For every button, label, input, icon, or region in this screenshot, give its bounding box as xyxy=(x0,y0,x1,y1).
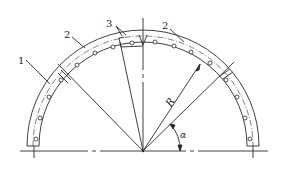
bolt-hole xyxy=(111,45,115,49)
bolt-hole xyxy=(59,78,63,82)
bolt-hole xyxy=(208,61,212,65)
label-part-2-right: 2 xyxy=(162,20,168,31)
bolt-hole xyxy=(248,137,252,141)
label-part-2-left: 2 xyxy=(64,29,70,40)
radial-line-crown xyxy=(120,42,143,151)
label-part-3: 3 xyxy=(106,18,112,29)
bolt-hole xyxy=(153,40,157,44)
bolt-hole xyxy=(235,95,239,99)
label-angle: α xyxy=(180,130,186,140)
bolt-hole xyxy=(172,44,176,48)
radial-line-right xyxy=(143,62,234,151)
bolt-hole xyxy=(75,63,79,67)
bolt-hole xyxy=(47,95,51,99)
bolt-hole xyxy=(93,51,97,55)
bolt-hole xyxy=(38,116,42,120)
diagram-svg: 1 2 3 2 R α xyxy=(0,0,285,170)
leader-1 xyxy=(26,60,50,84)
center-point xyxy=(142,150,144,152)
label-radius: R xyxy=(163,95,177,109)
leader-2-left xyxy=(72,37,85,48)
radial-line-left xyxy=(58,64,143,151)
bolt-hole xyxy=(34,137,38,141)
bolt-hole xyxy=(243,116,247,120)
bolt-hole xyxy=(130,41,134,45)
bolt-hole xyxy=(224,78,228,82)
bolt-hole xyxy=(189,50,193,54)
arch-diagram: 1 2 3 2 R α xyxy=(0,0,285,170)
label-part-1: 1 xyxy=(18,55,24,66)
radius-arrowhead xyxy=(196,64,200,71)
